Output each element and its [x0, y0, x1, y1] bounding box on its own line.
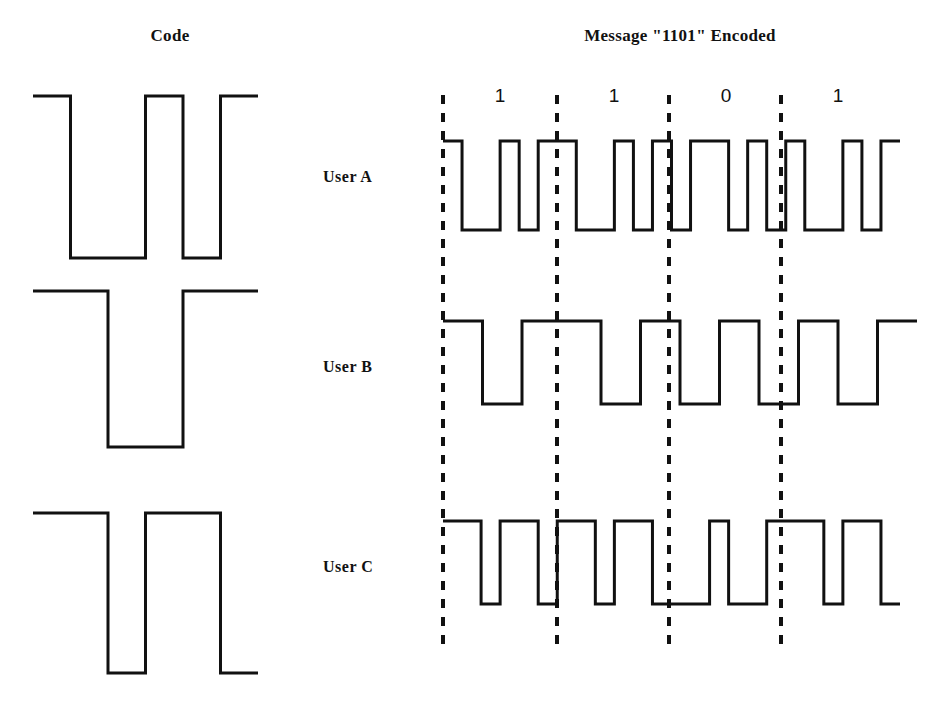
figure-canvas: Code Message "1101" Encoded User A User … — [0, 0, 930, 710]
bit-boundary-dividers — [443, 95, 781, 645]
code-waveform-user-b — [33, 291, 258, 447]
waveform-svg — [0, 0, 930, 710]
encoded-waveform-user-a — [443, 141, 900, 230]
encoded-waveform-user-c — [443, 521, 900, 604]
encoded-waveforms — [443, 141, 917, 604]
code-waveform-user-c — [33, 513, 258, 673]
code-waveform-user-a — [33, 96, 258, 258]
code-waveforms — [33, 96, 258, 673]
encoded-waveform-user-b — [443, 321, 917, 404]
